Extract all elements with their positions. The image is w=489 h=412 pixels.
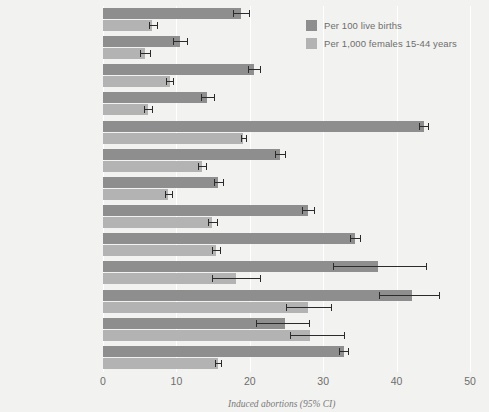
legend-item: Per 1,000 females 15-44 years xyxy=(306,38,457,49)
error-bar-cap xyxy=(152,106,153,113)
chart-row xyxy=(103,149,470,175)
error-bar-cap xyxy=(333,263,334,270)
error-bar-cap xyxy=(140,50,141,57)
legend-item: Per 100 live births xyxy=(306,20,457,31)
error-bar-cap xyxy=(350,235,351,242)
bar-per-100-live-births xyxy=(103,121,424,132)
error-bar-cap xyxy=(172,191,173,198)
chart-row xyxy=(103,177,470,203)
error-bar-cap xyxy=(214,179,215,186)
error-bar-cap xyxy=(309,320,310,327)
bar-per-100-live-births xyxy=(103,346,344,357)
error-bar xyxy=(333,266,426,267)
error-bar-cap xyxy=(198,163,199,170)
bar-per-100-live-births xyxy=(103,149,280,160)
error-bar-cap xyxy=(286,304,287,311)
error-bar-cap xyxy=(212,247,213,254)
error-bar-cap xyxy=(214,94,215,101)
chart-caption: Induced abortions (95% CI) xyxy=(228,399,335,409)
bar-per-100-live-births xyxy=(103,8,241,19)
error-bar xyxy=(339,351,348,352)
error-bar xyxy=(290,335,344,336)
error-bar-cap xyxy=(331,304,332,311)
bar-per-100-live-births xyxy=(103,290,412,301)
error-bar xyxy=(233,13,249,14)
chart-row xyxy=(103,261,470,287)
error-bar xyxy=(173,41,187,42)
error-bar xyxy=(286,307,331,308)
bar-per-100-live-births xyxy=(103,64,254,75)
error-bar-cap xyxy=(256,320,257,327)
error-bar xyxy=(214,182,224,183)
error-bar-cap xyxy=(260,275,261,282)
error-bar-cap xyxy=(379,292,380,299)
error-bar-cap xyxy=(221,360,222,367)
chart-row xyxy=(103,92,470,118)
error-bar-cap xyxy=(419,123,420,130)
x-axis-tick-label: 30 xyxy=(317,375,329,387)
x-axis: 01020304050 xyxy=(103,372,470,392)
error-bar xyxy=(248,69,260,70)
error-bar-cap xyxy=(187,38,188,45)
error-bar-cap xyxy=(217,219,218,226)
legend-swatch-icon xyxy=(306,20,317,31)
error-bar-cap xyxy=(249,10,250,17)
error-bar xyxy=(144,109,152,110)
error-bar xyxy=(215,363,221,364)
error-bar-cap xyxy=(208,219,209,226)
bar-per-1000-females xyxy=(103,330,310,341)
error-bar xyxy=(165,194,172,195)
x-axis-tick-label: 10 xyxy=(171,375,183,387)
error-bar-cap xyxy=(223,179,224,186)
error-bar-cap xyxy=(428,123,429,130)
error-bar xyxy=(419,126,428,127)
error-bar xyxy=(140,53,150,54)
bar-per-1000-females xyxy=(103,133,243,144)
error-bar-cap xyxy=(344,332,345,339)
error-bar-cap xyxy=(201,94,202,101)
bar-per-1000-females xyxy=(103,302,308,313)
chart-row xyxy=(103,121,470,147)
error-bar-cap xyxy=(285,151,286,158)
error-bar-cap xyxy=(233,10,234,17)
error-bar-cap xyxy=(314,207,315,214)
bar-per-100-live-births xyxy=(103,92,207,103)
chart-row xyxy=(103,64,470,90)
bar-per-1000-females xyxy=(103,104,148,115)
error-bar-cap xyxy=(246,135,247,142)
error-bar xyxy=(275,154,285,155)
error-bar-cap xyxy=(348,348,349,355)
bar-per-1000-females xyxy=(103,48,145,59)
error-bar-cap xyxy=(260,66,261,73)
error-bar-cap xyxy=(173,78,174,85)
bar-per-1000-females xyxy=(103,76,170,87)
error-bar xyxy=(350,238,360,239)
error-bar-cap xyxy=(439,292,440,299)
error-bar-cap xyxy=(339,348,340,355)
chart-row xyxy=(103,233,470,259)
error-bar xyxy=(241,138,246,139)
error-bar xyxy=(166,81,173,82)
error-bar-cap xyxy=(150,50,151,57)
bar-per-1000-females xyxy=(103,358,218,369)
error-bar xyxy=(302,210,314,211)
error-bar-cap xyxy=(144,106,145,113)
plot-area xyxy=(103,6,470,372)
error-bar-cap xyxy=(165,191,166,198)
error-bar-cap xyxy=(220,247,221,254)
error-bar-cap xyxy=(426,263,427,270)
error-bar xyxy=(208,222,217,223)
chart-row xyxy=(103,205,470,231)
bar-per-1000-females xyxy=(103,20,152,31)
bar-per-100-live-births xyxy=(103,177,218,188)
error-bar xyxy=(149,25,157,26)
chart-row xyxy=(103,318,470,344)
x-axis-tick-label: 40 xyxy=(391,375,403,387)
error-bar-cap xyxy=(215,360,216,367)
bar-per-1000-females xyxy=(103,161,202,172)
error-bar xyxy=(256,323,309,324)
error-bar-cap xyxy=(173,38,174,45)
error-bar xyxy=(212,250,219,251)
x-axis-tick-label: 50 xyxy=(464,375,476,387)
error-bar xyxy=(201,97,213,98)
